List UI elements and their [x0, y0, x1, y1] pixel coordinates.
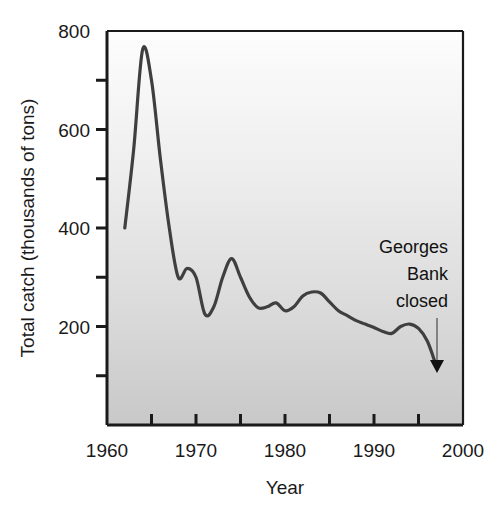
- x-tick-label-1970: 1970: [175, 440, 217, 461]
- chart-figure: 800 600 400 200 1960 1970 1980 1990 2000…: [0, 0, 502, 517]
- x-tick-label-1990: 1990: [353, 440, 395, 461]
- y-tick-label-800: 800: [58, 21, 90, 42]
- y-tick-label-400: 400: [58, 218, 90, 239]
- y-tick-label-200: 200: [58, 317, 90, 338]
- x-tick-label-1980: 1980: [264, 440, 306, 461]
- annotation-line-1: Georges: [379, 237, 448, 257]
- y-axis-ticks: [96, 80, 107, 376]
- plot-background: [107, 31, 463, 425]
- line-chart: 800 600 400 200 1960 1970 1980 1990 2000…: [0, 0, 502, 517]
- annotation-line-3: closed: [396, 291, 448, 311]
- annotation-line-2: Bank: [407, 264, 449, 284]
- y-tick-label-600: 600: [58, 120, 90, 141]
- x-tick-label-1960: 1960: [86, 440, 128, 461]
- y-axis-title: Total catch (thousands of tons): [17, 99, 38, 358]
- x-axis-title: Year: [266, 477, 305, 498]
- x-tick-label-2000: 2000: [442, 440, 484, 461]
